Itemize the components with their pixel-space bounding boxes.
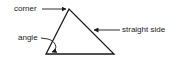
angle-label: angle <box>18 33 38 42</box>
triangle-diagram: corner angle straight side <box>0 0 183 63</box>
straight-side-label: straight side <box>122 25 165 34</box>
corner-label: corner <box>14 4 37 13</box>
